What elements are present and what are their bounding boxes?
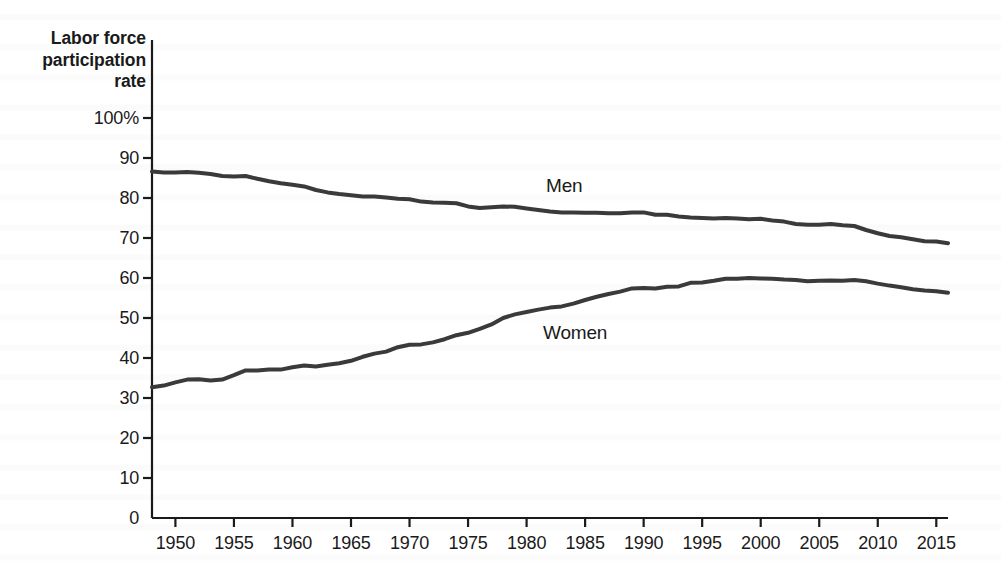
y-axis-tick-label: 40: [77, 349, 139, 367]
x-axis-tick-label: 2015: [901, 534, 971, 552]
labor-force-participation-chart: Labor force participation rate 010203040…: [0, 0, 1001, 584]
data-series-group: [152, 172, 948, 388]
axes: [143, 40, 948, 527]
y-axis-tick-label: 0: [77, 509, 139, 527]
series-label-women: Women: [543, 323, 607, 342]
y-axis-tick-label: 60: [77, 269, 139, 287]
y-axis-tick-label: 80: [77, 189, 139, 207]
y-axis-tick-label: 10: [77, 469, 139, 487]
y-axis-tick-label: 90: [77, 149, 139, 167]
y-axis-tick-label: 70: [77, 229, 139, 247]
x-axis-ticks: [175, 518, 936, 527]
series-label-men: Men: [546, 176, 582, 195]
y-axis-tick-label: 100%: [63, 109, 139, 127]
chart-plot-area: [0, 0, 1001, 584]
y-axis-tick-label: 50: [77, 309, 139, 327]
y-axis-tick-label: 20: [77, 429, 139, 447]
y-axis-tick-label: 30: [77, 389, 139, 407]
